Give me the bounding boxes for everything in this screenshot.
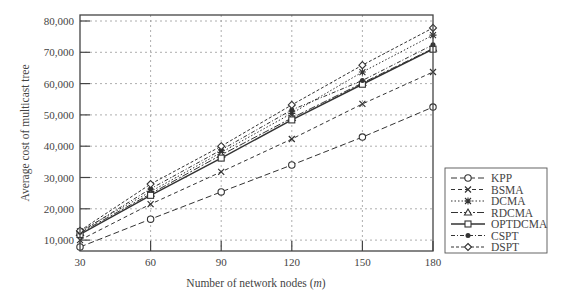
plot-frame: [80, 15, 433, 251]
legend-label: OPTDCMA: [491, 218, 548, 230]
x-tick-label: 120: [284, 256, 301, 268]
x-tick-label: 180: [425, 256, 442, 268]
y-tick-label: 30,000: [44, 172, 75, 184]
series-dspt: [77, 24, 437, 234]
legend: KPPBSMADCMARDCMAOPTDCMACSPTDSPT: [445, 168, 548, 253]
y-tick-label: 80,000: [44, 15, 75, 27]
y-tick-label: 20,000: [44, 203, 75, 215]
x-axis-label: Number of network nodes (m): [186, 277, 325, 290]
y-tick-label: 40,000: [44, 140, 75, 152]
legend-label: BSMA: [491, 184, 524, 196]
legend-label: KPP: [491, 172, 512, 184]
x-tick-label: 150: [354, 256, 371, 268]
y-tick-label: 70,000: [44, 46, 75, 58]
y-axis-label: Average cost of multicast tree: [19, 64, 32, 201]
x-tick-label: 90: [216, 256, 228, 268]
y-axis-ticks: 10,00020,00030,00040,00050,00060,00070,0…: [44, 15, 90, 246]
series-bsma: [77, 69, 436, 243]
grid-lines: [80, 15, 433, 251]
y-tick-label: 60,000: [44, 78, 75, 90]
x-axis-ticks: 306090120150180: [75, 241, 442, 268]
legend-label: CSPT: [491, 230, 519, 242]
x-tick-label: 30: [75, 256, 87, 268]
x-tick-label: 60: [145, 256, 157, 268]
line-chart: 10,00020,00030,00040,00050,00060,00070,0…: [0, 0, 567, 293]
y-tick-label: 50,000: [44, 109, 75, 121]
legend-label: DCMA: [491, 195, 526, 207]
legend-label: DSPT: [491, 241, 519, 253]
series-layer: [77, 24, 437, 250]
y-tick-label: 10,000: [44, 234, 75, 246]
legend-label: RDCMA: [491, 207, 534, 219]
